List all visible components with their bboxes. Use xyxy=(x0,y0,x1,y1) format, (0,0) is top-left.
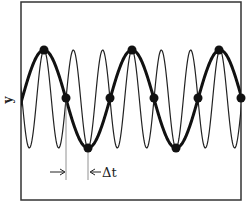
plot-frame xyxy=(21,2,241,200)
sample-point-dot xyxy=(62,94,71,103)
sample-point-dot xyxy=(128,46,137,55)
sample-point-dot xyxy=(215,46,224,55)
sample-point-dot xyxy=(150,94,159,103)
sample-point-dot xyxy=(40,46,49,55)
sample-point-dot xyxy=(194,94,203,103)
aliasing-diagram: Δt y xyxy=(0,0,252,206)
sample-point-dot xyxy=(172,144,181,153)
sample-point-dot xyxy=(237,94,246,103)
y-axis-label: y xyxy=(1,95,15,104)
sample-point-dot xyxy=(106,94,115,103)
delta-t-label: Δt xyxy=(102,165,117,180)
sample-point-dot xyxy=(84,144,93,153)
